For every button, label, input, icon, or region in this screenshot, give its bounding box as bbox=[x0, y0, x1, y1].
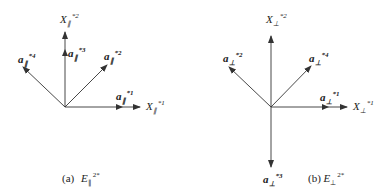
label-vector-a3-par: a∥*3 bbox=[68, 48, 86, 59]
label-symbol: X bbox=[353, 100, 360, 112]
label-vector-a1-par: a∥*1 bbox=[116, 91, 134, 102]
label-vector-a1-perp: a⊥*1 bbox=[320, 92, 340, 103]
label-symbol: a bbox=[309, 52, 315, 64]
caption-panel-a: (a) E∥2* bbox=[62, 173, 100, 184]
label-sub: ⊥ bbox=[360, 107, 366, 115]
label-axis-x1-par: X∥*1 bbox=[146, 101, 165, 112]
label-symbol: X bbox=[146, 100, 153, 112]
label-sup: *2 bbox=[280, 12, 287, 20]
caption-sub: ∥ bbox=[88, 179, 92, 187]
label-sup: *1 bbox=[367, 99, 374, 107]
label-vector-a3-perp: a⊥*3 bbox=[263, 174, 283, 185]
label-symbol: a bbox=[104, 50, 110, 62]
label-sub: ∥ bbox=[24, 60, 28, 68]
label-symbol: a bbox=[68, 47, 74, 59]
label-sup: *2 bbox=[115, 49, 122, 57]
label-sub: ⊥ bbox=[326, 98, 332, 106]
caption-symbol: E bbox=[81, 172, 88, 184]
label-sub: ⊥ bbox=[273, 20, 279, 28]
label-sub: ⊥ bbox=[229, 59, 235, 67]
label-sup: *4 bbox=[322, 51, 329, 59]
label-sup: *3 bbox=[276, 172, 283, 180]
label-symbol: a bbox=[263, 173, 269, 185]
label-axis-x2-par: X∥*2 bbox=[60, 14, 79, 25]
label-symbol: a bbox=[18, 53, 24, 65]
label-symbol: X bbox=[60, 13, 67, 25]
caption-prefix: (b) bbox=[308, 172, 321, 184]
vector-a4-perp bbox=[271, 66, 311, 107]
vector-a4-par bbox=[23, 67, 65, 107]
label-vector-a2-par: a∥*2 bbox=[104, 51, 122, 62]
label-symbol: X bbox=[266, 13, 273, 25]
label-sub: ⊥ bbox=[269, 180, 275, 188]
label-sup: *2 bbox=[236, 51, 243, 59]
caption-panel-b: (b) E⊥2* bbox=[308, 173, 344, 184]
label-sub: ⊥ bbox=[315, 59, 321, 67]
label-axis-x2-perp: X⊥*2 bbox=[266, 14, 287, 25]
label-sup: *4 bbox=[29, 52, 36, 60]
label-sub: ∥ bbox=[74, 54, 78, 62]
label-sup: *2 bbox=[72, 12, 79, 20]
label-axis-x1-perp: X⊥*1 bbox=[353, 101, 374, 112]
label-vector-a2-perp: a⊥*2 bbox=[223, 53, 243, 64]
vector-a2-par bbox=[65, 65, 107, 107]
vector-a2-perp bbox=[229, 67, 271, 107]
label-sub: ∥ bbox=[122, 97, 126, 105]
caption-sup: 2* bbox=[93, 171, 100, 179]
caption-sup: 2* bbox=[337, 171, 344, 179]
caption-prefix: (a) bbox=[62, 172, 74, 184]
label-sub: ∥ bbox=[153, 107, 157, 115]
label-sup: *1 bbox=[158, 99, 165, 107]
label-symbol: a bbox=[320, 91, 326, 103]
label-vector-a4-perp: a⊥*4 bbox=[309, 53, 329, 64]
label-sup: *1 bbox=[333, 90, 340, 98]
label-sub: ∥ bbox=[110, 57, 114, 65]
label-sup: *3 bbox=[79, 46, 86, 54]
label-sup: *1 bbox=[127, 89, 134, 97]
label-symbol: a bbox=[116, 90, 122, 102]
label-symbol: a bbox=[223, 52, 229, 64]
label-sub: ∥ bbox=[67, 20, 71, 28]
caption-sub: ⊥ bbox=[330, 179, 336, 187]
label-vector-a4-par: a∥*4 bbox=[18, 54, 36, 65]
